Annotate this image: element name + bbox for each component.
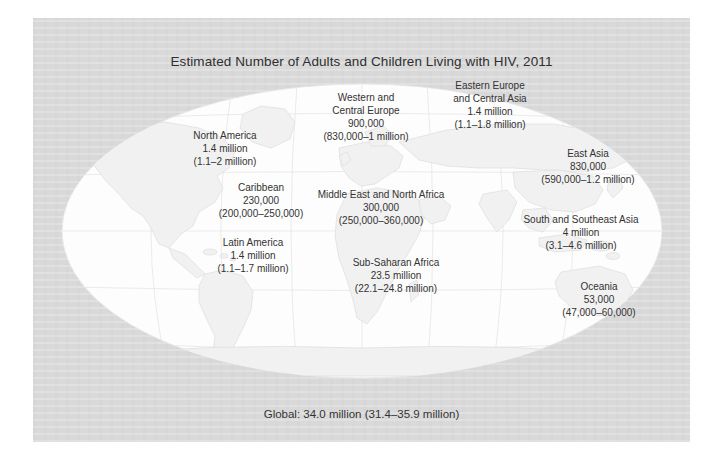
label-region-name: Middle East and North Africa (281, 188, 481, 201)
label-region-name-line2: Central Europe (301, 104, 431, 117)
label-value: 1.4 million (193, 249, 313, 262)
label-range: (590,000–1.2 million) (513, 173, 663, 186)
global-total-caption: Global: 34.0 million (31.4–35.9 million) (33, 408, 690, 420)
label-region-name: Sub-Saharan Africa (321, 256, 471, 269)
map-label-oceania: Oceania 53,000 (47,000–60,000) (529, 280, 669, 319)
label-value: 900,000 (301, 117, 431, 130)
label-value: 53,000 (529, 293, 669, 306)
label-value: 23.5 million (321, 269, 471, 282)
label-range: (250,000–360,000) (281, 214, 481, 227)
label-range: (1.1–1.7 million) (193, 262, 313, 275)
label-region-name-line1: Western and (301, 91, 431, 104)
figure-panel: Estimated Number of Adults and Children … (33, 18, 690, 442)
label-range: (1.1–2 million) (165, 155, 285, 168)
map-label-east-asia: East Asia 830,000 (590,000–1.2 million) (513, 147, 663, 186)
land-alaska (77, 132, 113, 152)
map-label-sub-saharan-africa: Sub-Saharan Africa 23.5 million (22.1–24… (321, 256, 471, 295)
label-region-name: South and Southeast Asia (501, 213, 661, 226)
map-label-western-central-europe: Western and Central Europe 900,000 (830,… (301, 91, 431, 143)
label-region-name-line2: and Central Asia (425, 92, 555, 105)
label-value: 4 million (501, 226, 661, 239)
label-range: (1.1–1.8 million) (425, 118, 555, 131)
label-range: (47,000–60,000) (529, 306, 669, 319)
label-region-name: Oceania (529, 280, 669, 293)
figure-page: Estimated Number of Adults and Children … (0, 0, 709, 454)
label-range: (3.1–4.6 million) (501, 239, 661, 252)
label-value: 1.4 million (425, 105, 555, 118)
map-label-middle-east-north-africa: Middle East and North Africa 300,000 (25… (281, 188, 481, 227)
map-label-eastern-europe-central-asia: Eastern Europe and Central Asia 1.4 mill… (425, 79, 555, 131)
page-title: Estimated Number of Adults and Children … (33, 54, 690, 69)
land-antarctica (65, 346, 659, 376)
label-region-name: North America (165, 129, 285, 142)
map-label-latin-america: Latin America 1.4 million (1.1–1.7 milli… (193, 236, 313, 275)
label-region-name-line1: Eastern Europe (425, 79, 555, 92)
label-value: 300,000 (281, 201, 481, 214)
label-value: 830,000 (513, 160, 663, 173)
label-region-name: East Asia (513, 147, 663, 160)
map-label-north-america: North America 1.4 million (1.1–2 million… (165, 129, 285, 168)
map-label-south-southeast-asia: South and Southeast Asia 4 million (3.1–… (501, 213, 661, 252)
label-value: 1.4 million (165, 142, 285, 155)
label-region-name: Latin America (193, 236, 313, 249)
label-range: (830,000–1 million) (301, 130, 431, 143)
label-range: (22.1–24.8 million) (321, 282, 471, 295)
